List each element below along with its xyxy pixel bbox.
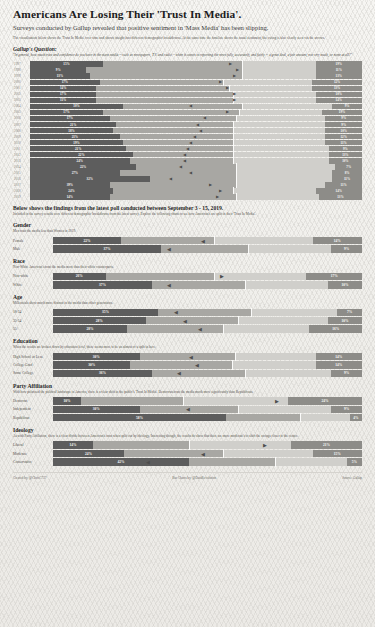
bar-value-label: 21% [323, 443, 330, 447]
segment-light [233, 188, 316, 193]
segment-light [189, 441, 291, 448]
swing-arrow-left-icon: ◀ [186, 147, 189, 151]
segment-positive: 7% [337, 309, 362, 316]
section-sub: As with Party Affiliation, there is a cl… [13, 434, 362, 439]
segment-negative: 10% [53, 397, 81, 404]
segment-negative: 37% [53, 281, 152, 288]
segment-mid [81, 397, 183, 404]
bar-value-label: 58% [136, 416, 143, 420]
section-sub: Men trust the media less than Women in 2… [13, 229, 362, 234]
swing-arrow-left-icon: ◀ [174, 310, 178, 315]
bar-value-label: 24% [77, 159, 83, 163]
segment-mid [110, 182, 236, 187]
segment-light [236, 176, 332, 181]
segment-mid [96, 92, 232, 97]
bar-value-label: 37% [104, 247, 111, 251]
bar-value-label: 19% [73, 141, 79, 145]
segment-mid [124, 450, 223, 457]
section-heading-gender: Gender [13, 222, 362, 228]
demographic-bar-track: 58%4% [53, 414, 362, 421]
timeline-year-label: 2012 [13, 153, 30, 157]
segment-positive: 24% [288, 397, 362, 404]
segment-mid [93, 441, 189, 448]
timeline-row: 199913%13%▶ [13, 73, 362, 79]
segment-mid [120, 134, 233, 139]
timeline-row: 200617%9%◀ [13, 115, 362, 121]
swing-arrow-left-icon: ◀ [195, 362, 199, 367]
bar-value-label: 22% [83, 239, 90, 243]
segment-mid [123, 140, 233, 145]
swing-arrow-left-icon: ◀ [183, 318, 187, 323]
bar-value-label: 11% [336, 68, 342, 72]
bar-value-label: 10% [342, 159, 348, 163]
bar-value-label: 12% [341, 135, 347, 139]
segment-light [236, 194, 319, 199]
segment-positive: 13% [312, 86, 362, 91]
section-chart: High School or Less30%14%◀College Grad30… [13, 352, 362, 377]
bar-value-label: 24% [68, 189, 74, 193]
segment-negative: 14% [30, 86, 96, 91]
demographic-bar-track: 28%10%◀ [53, 317, 362, 324]
bar-value-label: 14% [336, 98, 342, 102]
bar-value-label: 14% [67, 195, 73, 199]
timeline-bar-track: 39%11%▶ [30, 182, 362, 187]
demographic-label: White [13, 283, 53, 287]
segment-mid [152, 281, 245, 288]
segment-light [223, 80, 313, 85]
segment-negative: 22% [30, 164, 136, 169]
timeline-row: 201527%8%◀ [13, 170, 362, 176]
latest-poll-heading: Below shows the findings from the latest… [13, 205, 362, 211]
timeline-bar-track: 11%14%▶ [30, 98, 362, 103]
segment-mid [189, 458, 276, 465]
timeline-bar-track: 17%10%▶ [30, 92, 362, 97]
section-heading-ideology: Ideology [13, 427, 362, 433]
bar-value-label: 24% [321, 399, 328, 403]
section-chart: Democrat10%24%▶Independent30%9%◀Republic… [13, 397, 362, 422]
demographic-label: 35-54 [13, 319, 53, 323]
demographic-bar-track: 42%5%◀ [53, 458, 362, 465]
demographic-bar-track: 22%14%◀ [53, 237, 362, 244]
timeline-year-label: 2009 [13, 135, 30, 139]
section-chart: Non-white26%17%▶White37%10%◀ [13, 272, 362, 289]
timeline-row: 201914%13%▶ [13, 194, 362, 200]
segment-negative: 9% [30, 67, 86, 72]
gallup-question-heading: Gallup's Question: [13, 46, 362, 52]
timeline-bar-track: 17%19%▶ [30, 110, 362, 115]
demographic-row: 55+28%16%◀ [13, 325, 362, 333]
segment-mid [126, 146, 232, 151]
center-line [223, 449, 224, 458]
timeline-bar-track: 21%9%◀ [30, 146, 362, 151]
demographic-row: Non-white26%17%▶ [13, 272, 362, 280]
demographic-label: Some College [13, 371, 53, 375]
center-line [183, 396, 184, 405]
page-intro: The visualisation below shows the 'Trust… [13, 36, 362, 41]
center-line [214, 272, 215, 281]
bar-value-label: 10% [341, 283, 348, 287]
bar-value-label: 13% [57, 74, 63, 78]
segment-light [233, 158, 329, 163]
segment-positive: 7% [335, 164, 362, 169]
bar-value-label: 9% [344, 407, 349, 411]
center-line [214, 236, 215, 245]
segment-positive: 15% [313, 450, 362, 457]
segment-mid [130, 361, 232, 368]
bar-value-label: 10% [341, 129, 347, 133]
segment-light [214, 237, 313, 244]
segment-mid [96, 98, 232, 103]
swing-arrow-right-icon: ▶ [226, 86, 229, 90]
timeline-year-label: 2001 [13, 86, 30, 90]
segment-positive: 9% [331, 406, 362, 413]
segment-negative: 21% [30, 134, 120, 139]
segment-negative: 42% [53, 458, 189, 465]
segment-light [233, 122, 326, 127]
segment-negative: 13% [30, 73, 90, 78]
swing-arrow-left-icon: ◀ [189, 140, 192, 144]
demographic-label: Female [13, 239, 53, 243]
swing-arrow-left-icon: ◀ [189, 354, 193, 359]
segment-positive: 11% [316, 67, 362, 72]
segment-positive: 11% [332, 176, 362, 181]
center-line [248, 244, 249, 253]
segment-light [233, 152, 329, 157]
bar-value-label: 11% [60, 98, 66, 102]
segment-negative: 18% [30, 128, 113, 133]
